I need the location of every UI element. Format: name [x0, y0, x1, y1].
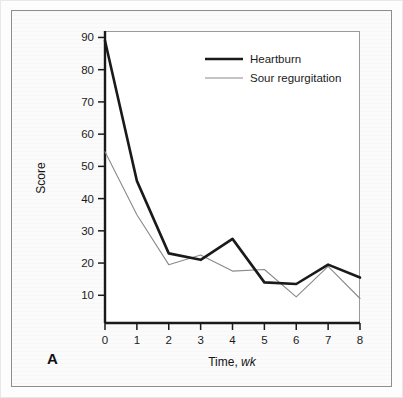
y-axis-tick-label: 30	[81, 225, 94, 237]
y-axis-ticks: 102030405060708090	[81, 31, 105, 301]
x-axis-title-main: Time,	[208, 355, 241, 369]
y-axis-tick-label: 50	[81, 160, 94, 172]
x-axis-tick-label: 2	[166, 334, 172, 346]
legend-label-heartburn: Heartburn	[250, 53, 301, 65]
y-axis-tick-label: 90	[81, 31, 94, 43]
y-axis-title: Score	[34, 162, 48, 194]
x-axis-title: Time, wk	[208, 355, 257, 369]
x-axis-tick-label: 8	[357, 334, 363, 346]
y-axis-tick-label: 20	[81, 257, 94, 269]
legend: Heartburn Sour regurgitation	[205, 53, 341, 84]
x-axis-tick-label: 1	[134, 334, 140, 346]
x-axis-tick-label: 6	[293, 334, 299, 346]
x-axis-tick-label: 5	[261, 334, 267, 346]
panel-label: A	[47, 350, 58, 367]
x-axis-tick-label: 4	[229, 334, 236, 346]
series-line-sour-regurgitation	[105, 152, 360, 299]
y-axis-tick-label: 70	[81, 96, 94, 108]
figure-root: 102030405060708090 012345678 Score Time,…	[0, 0, 403, 398]
x-axis-title-unit: wk	[241, 355, 257, 369]
y-axis-tick-label: 60	[81, 128, 94, 140]
chart-svg: 102030405060708090 012345678 Score Time,…	[0, 0, 403, 398]
y-axis-tick-label: 10	[81, 289, 94, 301]
legend-label-sour-regurgitation: Sour regurgitation	[250, 72, 341, 84]
y-axis-tick-label: 80	[81, 64, 94, 76]
y-axis-tick-label: 40	[81, 193, 94, 205]
x-axis-tick-label: 7	[325, 334, 331, 346]
x-axis-tick-label: 3	[197, 334, 203, 346]
x-axis-tick-label: 0	[102, 334, 108, 346]
x-axis-ticks: 012345678	[102, 323, 363, 346]
